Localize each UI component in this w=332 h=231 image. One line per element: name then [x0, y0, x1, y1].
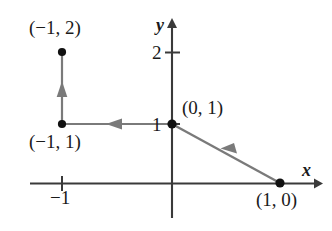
- point-label-0-1: (0, 1): [182, 98, 223, 117]
- x-axis-arrowhead: [314, 179, 323, 189]
- y-axis-arrowhead: [167, 18, 177, 28]
- point-label-neg1-2: (−1, 2): [29, 18, 81, 37]
- y-axis: [165, 18, 180, 218]
- y-tick-label-2: 2: [152, 43, 162, 62]
- dot-point-neg1-1: [58, 120, 66, 128]
- arrowhead-horizontal: [106, 119, 122, 130]
- vector-path: [57, 52, 280, 183]
- dot-point-1-0: [275, 178, 284, 187]
- arrowhead-vertical: [57, 81, 68, 97]
- coordinate-plane-figure: (−1, 2) (−1, 1) (0, 1) (1, 0) −1 1 2 y x: [0, 0, 332, 231]
- segment-diagonal: [172, 124, 280, 183]
- point-label-neg1-1: (−1, 1): [29, 132, 81, 151]
- y-tick-label-1: 1: [152, 115, 162, 134]
- dot-point-neg1-2: [58, 48, 66, 56]
- dot-point-0-1: [167, 119, 176, 128]
- x-axis-name: x: [302, 161, 311, 179]
- y-axis-name: y: [156, 16, 164, 34]
- x-tick-label-neg1: −1: [50, 188, 70, 207]
- point-label-1-0: (1, 0): [256, 190, 297, 209]
